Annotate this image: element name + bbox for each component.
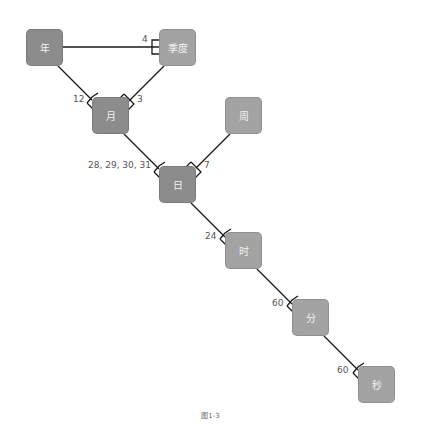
node-label: 秒: [372, 377, 382, 392]
node-label: 年: [40, 40, 50, 55]
node-quarter: 季度: [159, 29, 196, 66]
node-label: 周: [239, 108, 249, 123]
multiplicity-day-hour: 24: [205, 231, 216, 241]
multiplicity-week-day: 7: [204, 160, 210, 170]
node-minute: 分: [292, 299, 329, 336]
figure-caption: 图1-3: [0, 410, 421, 420]
multiplicity-year-quarter: 4: [142, 34, 148, 44]
node-week: 周: [225, 97, 262, 134]
node-hour: 时: [225, 232, 262, 269]
node-month: 月: [92, 97, 129, 134]
edge-year-quarter-marker: [152, 40, 159, 54]
node-day: 日: [159, 166, 196, 203]
multiplicity-quarter-month: 3: [137, 94, 143, 104]
node-label: 月: [106, 108, 116, 123]
node-label: 分: [306, 310, 316, 325]
multiplicity-minute-second: 60: [337, 365, 348, 375]
node-label: 时: [239, 243, 249, 258]
multiplicity-hour-minute: 60: [272, 298, 283, 308]
node-year: 年: [26, 29, 63, 66]
multiplicity-year-month: 12: [73, 94, 84, 104]
node-label: 季度: [168, 40, 188, 55]
edge-quarter-month: [129, 66, 164, 101]
node-second: 秒: [358, 366, 395, 403]
multiplicity-month-day: 28, 29, 30, 31: [88, 160, 151, 170]
edge-week-day: [196, 134, 230, 168]
node-label: 日: [173, 177, 183, 192]
